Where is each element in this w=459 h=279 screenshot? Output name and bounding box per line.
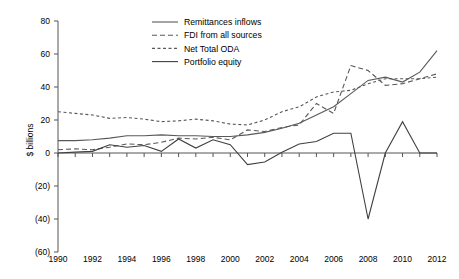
series-line-net-total-oda <box>58 77 437 125</box>
x-tick-label: 1992 <box>83 254 102 264</box>
y-tick-label: 20 <box>41 115 51 125</box>
y-axis-title: $ billions <box>25 123 35 156</box>
legend-label: Net Total ODA <box>184 44 240 54</box>
legend-label: Remittances inflows <box>184 17 262 27</box>
series-line-remittances-inflows <box>58 51 437 141</box>
y-tick-label: (40) <box>35 214 50 224</box>
y-tick-label: (20) <box>35 181 50 191</box>
x-tick-label: 2006 <box>324 254 343 264</box>
y-tick-label: 60 <box>41 49 51 59</box>
line-chart: 806040200(20)(40)(60)1990199219941996199… <box>0 0 459 279</box>
legend-label: Portfolio equity <box>184 57 242 67</box>
x-tick-label: 1996 <box>152 254 171 264</box>
series-line-portfolio-equity <box>58 122 437 219</box>
chart-container: 806040200(20)(40)(60)1990199219941996199… <box>0 0 459 279</box>
y-tick-label: 40 <box>41 82 51 92</box>
x-tick-label: 2000 <box>221 254 240 264</box>
x-tick-label: 2012 <box>428 254 447 264</box>
x-tick-label: 1994 <box>117 254 136 264</box>
legend-label: FDI from all sources <box>184 30 262 40</box>
x-tick-label: 1990 <box>49 254 68 264</box>
x-tick-label: 2004 <box>290 254 309 264</box>
x-tick-label: 1998 <box>186 254 205 264</box>
x-tick-label: 2002 <box>255 254 274 264</box>
x-tick-label: 2008 <box>359 254 378 264</box>
y-tick-label: 80 <box>41 16 51 26</box>
x-tick-label: 2010 <box>393 254 412 264</box>
y-tick-label: 0 <box>45 148 50 158</box>
